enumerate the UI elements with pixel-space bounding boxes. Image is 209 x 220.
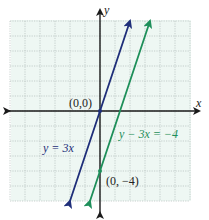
line2-equation-label: y − 3x = −4 xyxy=(118,127,178,141)
intercept-point-label: (0, −4) xyxy=(106,174,139,188)
line1-equation-label: y = 3x xyxy=(42,141,74,155)
coordinate-plane-chart: y x (0,0) (0, −4) y = 3x y − 3x = −4 xyxy=(0,0,209,220)
x-axis-label: x xyxy=(195,96,202,110)
point-y-intercept xyxy=(98,169,102,173)
point-origin xyxy=(98,109,102,113)
origin-point-label: (0,0) xyxy=(69,96,92,110)
y-axis-label: y xyxy=(103,3,110,17)
